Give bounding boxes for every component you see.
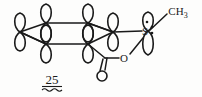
- chemical-structure-figure: S O CH3 25: [0, 0, 202, 97]
- bond-ring-to-sulfur: [113, 31, 142, 32]
- benzene-ring-bonds: [20, 23, 113, 44]
- structure-drawing: S O CH3 25: [0, 0, 202, 97]
- lone-pair-dot-right-1: [151, 26, 154, 29]
- p-orbital-set: [15, 4, 119, 63]
- p-orbital-1: [15, 13, 26, 51]
- ester-group: [88, 38, 143, 71]
- carbonyl-oxygen-glyph: [97, 71, 107, 81]
- bond-ring-to-carbonyl: [88, 44, 105, 58]
- sulfur-label: S: [142, 25, 148, 37]
- methyl-label-main: CH: [168, 5, 183, 17]
- bond-ester-o-to-sulfur: [130, 38, 143, 54]
- lone-pair-dot-right-2: [151, 32, 154, 35]
- compound-number-label: 25: [46, 72, 59, 87]
- ester-oxygen-label: O: [120, 52, 128, 64]
- methyl-label: CH3: [168, 5, 187, 20]
- lone-pair-dot-top-1: [146, 21, 149, 24]
- bond-carbonyl-double-b: [105, 58, 107, 70]
- bond-carbonyl-double-a: [100, 59, 103, 71]
- methyl-label-subscript: 3: [184, 11, 188, 20]
- compound-label-squiggle: [42, 89, 62, 92]
